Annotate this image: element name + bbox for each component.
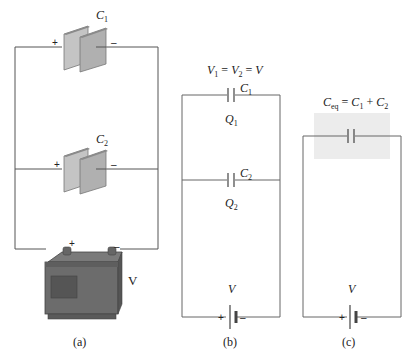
equation-voltage-equal: V1 = V2 = V: [207, 64, 263, 79]
label-q2: Q2: [225, 197, 238, 212]
capacitor-c2-symbol: [228, 173, 234, 187]
car-battery-icon: [45, 247, 122, 319]
battery-symbol-c: [350, 305, 356, 329]
battery-plus-sign-a: +: [69, 239, 75, 249]
label-c2-b: C2: [240, 167, 252, 182]
battery-minus-sign-a: –: [114, 242, 120, 252]
c2-plus-sign: +: [54, 160, 60, 170]
battery-plus-sign-b: +: [218, 313, 224, 323]
battery-label-a: V: [128, 274, 137, 287]
panel-a-wires: [15, 47, 158, 249]
battery-label-c: V: [348, 283, 355, 295]
label-c1-a: C1: [96, 9, 108, 24]
capacitor-c1-symbol: [228, 88, 234, 102]
battery-minus-sign-c: –: [361, 313, 367, 323]
c2-minus-sign: –: [111, 160, 117, 170]
caption-a: (a): [73, 336, 86, 348]
battery-label-b: V: [228, 283, 235, 295]
label-c2-a: C2: [96, 133, 108, 148]
battery-symbol-b: [230, 305, 236, 329]
circuit-diagram: [0, 0, 409, 358]
battery-minus-sign-b: –: [240, 313, 246, 323]
caption-b: (b): [223, 336, 237, 348]
capacitor-c1-3d: [64, 26, 108, 72]
battery-plus-sign-c: +: [339, 313, 345, 323]
label-c1-b: C1: [240, 82, 252, 97]
c1-plus-sign: +: [52, 38, 58, 48]
caption-c: (c): [342, 336, 355, 348]
equation-equivalent-capacitance: Ceq = C1 + C2: [323, 96, 388, 111]
capacitor-c2-3d: [64, 148, 108, 194]
label-q1: Q1: [225, 113, 238, 128]
c1-minus-sign: –: [111, 38, 117, 48]
